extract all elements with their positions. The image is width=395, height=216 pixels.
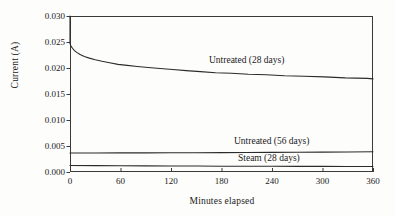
- plot-area: [0, 0, 395, 216]
- series-line-1: [70, 152, 373, 153]
- series-line-2: [70, 166, 373, 167]
- series-line-0: [70, 16, 373, 79]
- plot-frame: [71, 17, 373, 172]
- figure-current-vs-minutes: Current (A) Minutes elapsed 0.0000.0050.…: [0, 0, 395, 216]
